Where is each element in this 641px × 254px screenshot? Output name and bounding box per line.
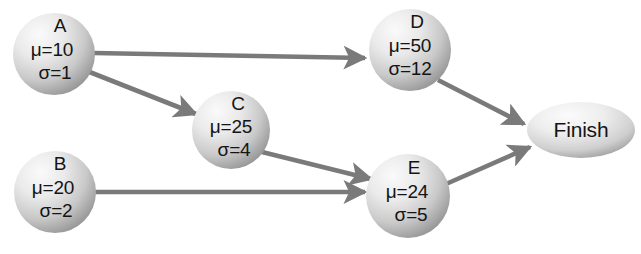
activity-network-graph [0,0,641,254]
node-circle-d[interactable] [369,9,451,91]
node-ellipse-finish[interactable] [527,102,635,158]
edge-d-to-finish [438,80,524,124]
edge-a-to-d [94,53,365,58]
edge-c-to-e [258,151,371,179]
edge-a-to-c [87,71,196,114]
node-circle-a[interactable] [13,13,95,95]
edge-layer [87,53,530,192]
node-shape-layer [13,9,635,238]
edge-e-to-finish [446,147,530,184]
node-circle-c[interactable] [192,91,270,169]
diagram-canvas: A μ=10 σ=1 B μ=20 σ=2 C μ=25 σ=4 D μ=50 … [0,0,641,254]
node-circle-e[interactable] [366,154,450,238]
node-circle-b[interactable] [14,151,96,233]
